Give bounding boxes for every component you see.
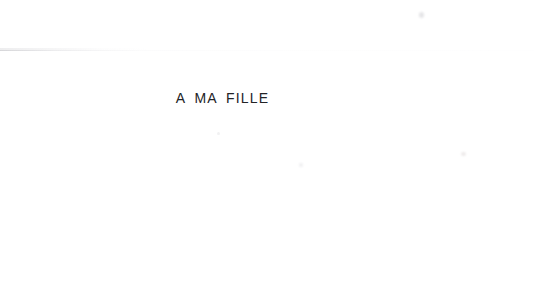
- paper-speck-below-text: [217, 132, 220, 135]
- dedication-block: A MA FILLE: [0, 89, 445, 107]
- paper-speck-upper-right: [419, 12, 424, 18]
- paper-speck-center: [299, 163, 303, 167]
- dedication-text: A MA FILLE: [176, 91, 269, 106]
- scan-edge-artifact: [0, 48, 150, 51]
- scan-line-artifact: [0, 50, 534, 51]
- document-page: A MA FILLE: [0, 0, 534, 284]
- paper-speck-mid-right: [461, 152, 466, 156]
